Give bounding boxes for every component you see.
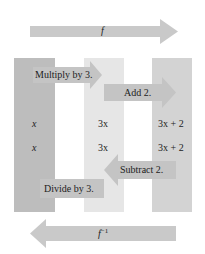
input-value-row1: x <box>32 119 36 129</box>
inverse-function-label: f−1 <box>98 228 108 239</box>
function-label: f <box>101 26 104 36</box>
divide-step-label: Divide by 3. <box>44 184 94 194</box>
inverse-function-superscript: −1 <box>101 227 108 235</box>
multiply-step-label: Multiply by 3. <box>35 70 93 80</box>
intermediate-value-row1: 3x <box>98 119 108 129</box>
output-value-row2: 3x + 2 <box>158 143 184 153</box>
intermediate-value-row2: 3x <box>98 143 108 153</box>
input-value-row2: x <box>32 143 36 153</box>
add-step-label: Add 2. <box>124 88 151 98</box>
subtract-step-label: Subtract 2. <box>120 165 163 175</box>
output-value-row1: 3x + 2 <box>158 119 184 129</box>
function-arrow-shape <box>30 19 178 44</box>
